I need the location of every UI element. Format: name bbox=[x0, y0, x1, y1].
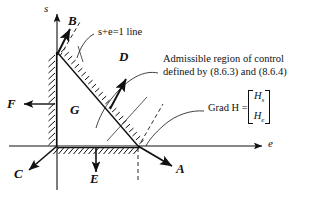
vector-label-A: A bbox=[176, 162, 185, 175]
grad-h-components: Hs He bbox=[254, 90, 265, 124]
vector-label-B: B bbox=[68, 14, 77, 27]
grad-component-e: He bbox=[254, 110, 265, 124]
leader-line-grad-h bbox=[146, 111, 204, 146]
vector-arrow-A bbox=[138, 146, 172, 166]
grad-component-s: Hs bbox=[254, 90, 264, 104]
figure-container: s e B D F G C E A s+e=1 line Admissible … bbox=[0, 0, 322, 198]
grad-h-annotation: Grad H = Hs He bbox=[208, 90, 270, 124]
matrix-bracket-left bbox=[248, 90, 253, 124]
vector-label-E: E bbox=[90, 172, 99, 185]
s-plus-e-line-text: s+e=1 line bbox=[98, 26, 142, 37]
matrix-bracket-right bbox=[265, 90, 270, 124]
grad-h-label: Grad H = bbox=[208, 102, 248, 113]
admissible-region-line1: Admissible region of control bbox=[163, 52, 287, 65]
leader-line-s-plus-e bbox=[77, 34, 94, 58]
vector-arrow-C bbox=[29, 146, 57, 170]
hatch-diagonal-boundary bbox=[57, 48, 144, 146]
vector-label-G: G bbox=[70, 103, 79, 116]
hatch-vertical-boundary bbox=[49, 52, 57, 146]
s-plus-e-line-label: s+e=1 line bbox=[98, 25, 142, 38]
vector-arrow-D bbox=[110, 79, 126, 109]
leader-line-admissible-region bbox=[96, 72, 158, 128]
axis-label-e: e bbox=[268, 138, 273, 149]
vector-label-C: C bbox=[14, 167, 23, 180]
vector-label-D: D bbox=[119, 50, 128, 63]
admissible-region-note: Admissible region of control defined by … bbox=[163, 52, 287, 79]
diagram-canvas bbox=[0, 0, 322, 198]
axis-label-s: s bbox=[44, 3, 48, 14]
dashed-line-intersection-normal bbox=[141, 104, 163, 142]
vector-label-F: F bbox=[7, 97, 16, 110]
admissible-region-line2: defined by (8.6.3) and (8.6.4) bbox=[163, 65, 287, 78]
